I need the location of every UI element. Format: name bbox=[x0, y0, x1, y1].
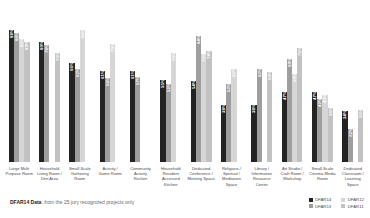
bar-value-label: 88% bbox=[80, 30, 85, 40]
chart-legend: DFAR14DFAR12DFAR13DFAR11 bbox=[309, 197, 365, 209]
bar-value-label: 69% bbox=[287, 59, 292, 69]
bar-value-label: 78% bbox=[44, 45, 49, 55]
bar-value-label: 36% bbox=[328, 108, 333, 118]
legend-label: DFAR13 bbox=[315, 204, 331, 209]
bar-value-label: 84% bbox=[196, 36, 201, 46]
bar-dfar11: 60% bbox=[267, 72, 272, 162]
x-axis-label: Household Resident Accessed Kitchen bbox=[156, 166, 186, 196]
legend-swatch-icon bbox=[309, 204, 313, 208]
bar-dfar12: 79% bbox=[110, 44, 115, 163]
bar-dfar12: 62% bbox=[231, 69, 236, 162]
bar-dfar11: 80% bbox=[24, 42, 29, 162]
footnote-text: : from the 25 jury recognized projects o… bbox=[41, 199, 134, 205]
bar-value-label: 35% bbox=[358, 110, 363, 120]
chart-plot-area: 88%86%82%80%80%78%73%66%62%88%61%56%79%6… bbox=[4, 12, 368, 162]
bar-group: 55%52%73% bbox=[156, 12, 186, 162]
bar-group: 66%62%88% bbox=[65, 12, 95, 162]
bar-dfar13: 22% bbox=[348, 129, 353, 162]
bar-dfar11: 36% bbox=[328, 108, 333, 162]
x-axis-label: Religious / Spiritual / Meditation Space bbox=[216, 166, 246, 196]
x-axis-label: Activity / Game Room bbox=[95, 166, 125, 196]
bar-dfar13: 57% bbox=[135, 77, 140, 163]
bar-group: 34%22%35% bbox=[338, 12, 368, 162]
bar-dfar12: 73% bbox=[171, 53, 176, 163]
x-axis-label: Dedicated Classroom / Learning Space bbox=[338, 166, 368, 196]
bar-value-label: 60% bbox=[267, 72, 272, 82]
legend-label: DFAR11 bbox=[348, 204, 364, 209]
footnote-emphasis: DFAR14 Data bbox=[10, 199, 41, 205]
x-axis-label: Art Studio / Craft Room / Workshop bbox=[277, 166, 307, 196]
legend-item[interactable]: DFAR11 bbox=[341, 204, 364, 209]
grouped-bar-chart: 88%86%82%80%80%78%73%66%62%88%61%56%79%6… bbox=[0, 0, 370, 218]
bar-dfar13: 62% bbox=[257, 69, 262, 162]
legend-label: DFAR12 bbox=[348, 197, 364, 202]
bar-value-label: 57% bbox=[135, 77, 140, 87]
bar-dfar13: 78% bbox=[44, 45, 49, 162]
bar-group: 38%62%60% bbox=[247, 12, 277, 162]
bar-value-label: 80% bbox=[24, 42, 29, 52]
bar-group: 54%84%72%74% bbox=[186, 12, 216, 162]
x-axis-label: Library / Information Resource Center bbox=[247, 166, 277, 196]
legend-swatch-icon bbox=[341, 198, 345, 202]
bar-value-label: 22% bbox=[348, 129, 353, 139]
x-axis-label: Small-Scale Cinema Media Room bbox=[307, 166, 337, 196]
legend-item[interactable]: DFAR12 bbox=[341, 197, 364, 202]
bar-group: 47%42%45%36% bbox=[307, 12, 337, 162]
x-axis-category-labels: Large Multi Purpose RoomHousehold Living… bbox=[4, 166, 368, 196]
bar-group: 38%52%62% bbox=[216, 12, 246, 162]
bar-value-label: 73% bbox=[171, 53, 176, 63]
bar-group: 88%86%82%80% bbox=[4, 12, 34, 162]
bar-group: 61%56%79% bbox=[95, 12, 125, 162]
bar-dfar11: 76% bbox=[297, 48, 302, 162]
legend-item[interactable]: DFAR14 bbox=[309, 197, 332, 202]
legend-swatch-icon bbox=[341, 204, 345, 208]
bar-dfar11: 74% bbox=[206, 51, 211, 162]
bar-group: 80%78%73% bbox=[34, 12, 64, 162]
bar-dfar12: 88% bbox=[80, 30, 85, 162]
legend-label: DFAR14 bbox=[315, 197, 331, 202]
x-axis-label: Large Multi Purpose Room bbox=[4, 166, 34, 196]
x-axis-label: Household Living Room / Den Area bbox=[34, 166, 64, 196]
bar-value-label: 45% bbox=[322, 95, 327, 105]
bar-dfar11: 73% bbox=[55, 53, 60, 163]
chart-footnote: DFAR14 Data: from the 25 jury recognized… bbox=[10, 199, 134, 206]
legend-item[interactable]: DFAR13 bbox=[309, 204, 332, 209]
x-axis-label: Dedicated Conference / Meeting Space bbox=[186, 166, 216, 196]
bar-value-label: 62% bbox=[231, 69, 236, 79]
legend-swatch-icon bbox=[309, 198, 313, 202]
bar-value-label: 73% bbox=[55, 53, 60, 63]
bar-dfar11: 35% bbox=[358, 110, 363, 163]
x-axis-label: Community Activity Kitchen bbox=[125, 166, 155, 196]
bar-value-label: 62% bbox=[257, 69, 262, 79]
bar-value-label: 76% bbox=[297, 48, 302, 58]
bar-group: 47%69%59%76% bbox=[277, 12, 307, 162]
bar-value-label: 79% bbox=[110, 44, 115, 54]
bar-value-label: 74% bbox=[206, 51, 211, 61]
bar-value-label: 34% bbox=[342, 111, 347, 121]
bar-group: 61%57% bbox=[125, 12, 155, 162]
x-axis-label: Small-Scale Gathering Room bbox=[65, 166, 95, 196]
